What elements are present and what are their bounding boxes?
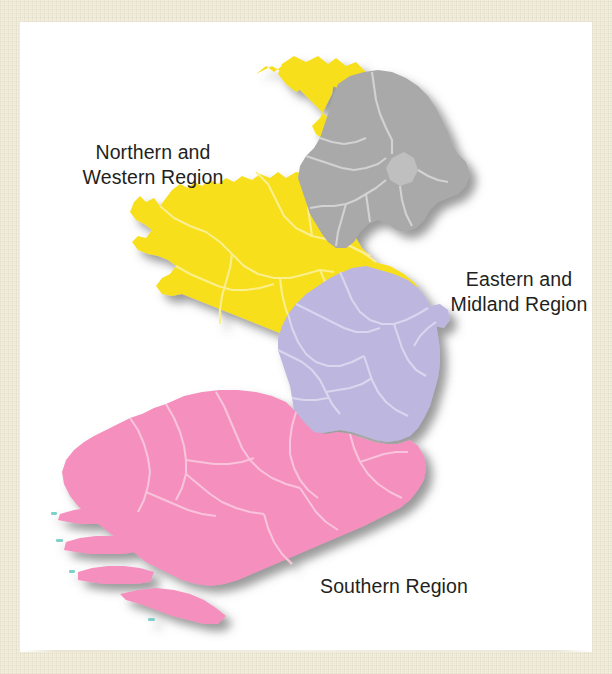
- region-s-iveragh-peninsula: [64, 536, 140, 554]
- ireland-regions-map: Northern and Western Region Eastern and …: [20, 22, 592, 652]
- region-s-beara-peninsula: [78, 566, 154, 584]
- region-s-mizen-head: [120, 588, 226, 624]
- label-eastern-midland-region: Eastern and Midland Region: [420, 267, 612, 317]
- map-svg: [20, 22, 592, 652]
- label-northern-western-region: Northern and Western Region: [58, 140, 248, 190]
- label-southern-region: Southern Region: [278, 574, 510, 599]
- page-scan-line: [22, 650, 590, 652]
